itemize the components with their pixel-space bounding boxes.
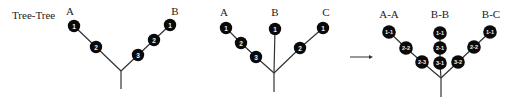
tree-node: 2-2 (467, 40, 481, 54)
tree-node: 1-1 (483, 25, 497, 39)
tree-node: 2-1 (433, 41, 447, 55)
tree-node: 3-1 (433, 56, 447, 70)
tree-node: 3 (250, 51, 262, 63)
tree-abc: A123B1C12 (220, 6, 330, 92)
node-label: 1-1 (486, 29, 494, 35)
node-label: 3 (136, 52, 140, 59)
branch-label: A (220, 6, 228, 18)
tree-merge-diagram: Tree-Tree A12B123A123B1C12A-A1-12-22-3B-… (0, 0, 514, 104)
tree-node: 2-2 (399, 41, 413, 55)
node-label: 1 (72, 23, 76, 30)
branch-label: B-C (482, 8, 500, 20)
node-label: 2 (298, 45, 302, 52)
tree-node: 2 (294, 42, 306, 54)
transform-arrow (350, 55, 373, 59)
trees-container: A12B123A123B1C12A-A1-12-22-3B-B1-12-13-1… (66, 5, 500, 97)
node-label: 3-2 (454, 59, 462, 65)
arrow-head-icon (369, 55, 373, 59)
tree-ab: A12B123 (66, 5, 179, 89)
node-label: 2-2 (402, 45, 410, 51)
tree-node: 3-2 (451, 55, 465, 69)
node-label: 2 (239, 40, 243, 47)
tree-node: 1 (269, 23, 281, 35)
tree-node: 2-3 (415, 55, 429, 69)
branch-edge (389, 32, 441, 78)
tree-merged: A-A1-12-22-3B-B1-12-13-1B-C1-12-23-2 (379, 8, 500, 97)
diagram-title: Tree-Tree (12, 9, 55, 21)
branch-label: C (322, 6, 329, 18)
node-label: 1 (273, 26, 277, 33)
tree-node: 2 (235, 37, 247, 49)
branch-edge (121, 25, 170, 71)
branch-edge (441, 32, 490, 78)
node-label: 1-1 (385, 29, 393, 35)
node-label: 1 (224, 25, 228, 32)
branch-label: B (171, 5, 178, 17)
branch-label: B-B (431, 8, 449, 20)
tree-node: 1-1 (382, 25, 396, 39)
tree-node: 1 (164, 19, 176, 31)
tree-node: 1-1 (433, 26, 447, 40)
node-label: 1 (168, 22, 172, 29)
node-label: 3 (254, 54, 258, 61)
node-label: 1 (321, 25, 325, 32)
node-label: 1-1 (436, 30, 444, 36)
node-label: 3-1 (436, 60, 444, 66)
branch-label: B (271, 6, 278, 18)
node-label: 2-2 (470, 44, 478, 50)
branch-edge (226, 28, 274, 73)
tree-node: 1 (68, 20, 80, 32)
branch-edge (274, 29, 275, 73)
tree-node: 2 (148, 34, 160, 46)
branch-label: A-A (379, 8, 399, 20)
node-label: 2 (94, 44, 98, 51)
tree-node: 2 (90, 41, 102, 53)
node-label: 2-3 (418, 59, 426, 65)
branch-label: A (66, 5, 74, 17)
tree-node: 1 (317, 22, 329, 34)
tree-node: 1 (220, 22, 232, 34)
node-label: 2 (152, 37, 156, 44)
tree-node: 3 (132, 49, 144, 61)
node-label: 2-1 (436, 45, 444, 51)
